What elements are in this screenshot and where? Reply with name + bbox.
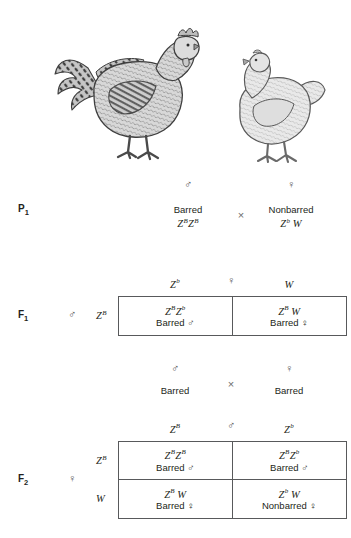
generation-label-f1: F1	[18, 309, 28, 323]
f1-col-gamete-1: Zb	[170, 277, 180, 290]
f1-cell-2: ZB W Barred ♀	[233, 297, 347, 335]
f2-row-gamete-2: W	[96, 493, 105, 504]
genetics-cross-figure: P1 ♂ ♀ Barred ZBZB × Nonbarred Zb W F1 ♂…	[0, 0, 351, 538]
f1cross-female-phenotype: Barred	[275, 385, 304, 396]
f1-punnett-square: ZBZb Barred ♂ ZB W Barred ♀	[118, 296, 347, 336]
f2-cell-1: ZBZB Barred ♂	[119, 442, 233, 480]
f2-cell-3: ZB W Barred ♀	[119, 480, 233, 518]
p1-male-symbol: ♂	[184, 178, 192, 190]
f1-row-parent-symbol: ♂	[68, 308, 76, 320]
f1cross-male-symbol: ♂	[171, 362, 179, 374]
f2-cell-2-phenotype: Barred ♂	[270, 462, 308, 473]
f1cross-male-phenotype: Barred	[161, 385, 190, 396]
f2-cell-2: ZBZb Barred ♂	[233, 442, 347, 480]
illustration-row	[0, 14, 351, 170]
f1-cell-1: ZBZb Barred ♂	[119, 297, 233, 335]
p1-mother: Nonbarred Zb W	[269, 204, 314, 229]
p1-father: Barred ZBZB	[174, 204, 203, 229]
p1-father-genotype: ZBZB	[177, 218, 198, 229]
f2-col-parent-symbol: ♂	[227, 419, 235, 431]
f2-cell-1-phenotype: Barred ♂	[156, 462, 194, 473]
generation-label-p1: P1	[18, 203, 29, 217]
f2-col-gamete-2: Zb	[284, 422, 294, 435]
f1-cell-2-phenotype: Barred ♀	[270, 317, 308, 328]
f2-cell-3-phenotype: Barred ♀	[156, 500, 194, 511]
f1-cell-1-phenotype: Barred ♂	[156, 317, 194, 328]
p1-mother-genotype: Zb W	[280, 218, 301, 229]
f1cross-symbol: ×	[228, 378, 234, 390]
f1-cell-2-genotype: ZB W	[278, 304, 300, 317]
f2-cell-4: Zb W Nonbarred ♀	[233, 480, 347, 518]
f2-row-gamete-1: ZB	[96, 454, 107, 467]
f1-col-parent-symbol: ♀	[227, 274, 235, 286]
f2-punnett-square: ZBZB Barred ♂ ZBZb Barred ♂ ZB W Barred …	[118, 441, 347, 519]
f1-cell-1-genotype: ZBZb	[165, 304, 186, 317]
f2-cell-4-phenotype: Nonbarred ♀	[262, 500, 317, 511]
f2-cell-2-genotype: ZBZb	[279, 448, 300, 461]
f2-cell-4-genotype: Zb W	[279, 487, 300, 500]
f1-row-gamete: ZB	[96, 309, 107, 322]
f2-cell-1-genotype: ZBZB	[165, 448, 186, 461]
generation-label-f2: F2	[18, 473, 28, 487]
hen-illustration	[210, 48, 328, 164]
p1-cross-symbol: ×	[238, 209, 244, 221]
f2-cell-3-genotype: ZB W	[164, 487, 186, 500]
f2-col-gamete-1: ZB	[170, 422, 181, 435]
f2-row-parent-symbol: ♀	[68, 472, 76, 484]
rooster-illustration	[52, 24, 200, 164]
p1-female-symbol: ♀	[287, 178, 295, 190]
f1cross-female-symbol: ♀	[285, 362, 293, 374]
f1-col-gamete-2: W	[284, 277, 293, 290]
